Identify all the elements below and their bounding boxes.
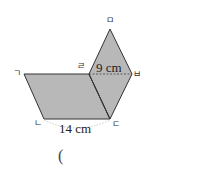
answer-open-paren: ( xyxy=(58,148,63,164)
figure-drawing xyxy=(0,0,214,174)
vertex-label-giyeok: ㄱ xyxy=(13,69,21,78)
vertex-label-nieun: ㄴ xyxy=(34,119,42,128)
vertex-label-rieul: ㄹ xyxy=(77,62,85,71)
dimension-label-14cm: 14 cm xyxy=(59,122,91,135)
geometry-figure: ㄱ ㄴ ㄷ ㄹ ㅁ ㅂ 9 cm 14 cm ( xyxy=(0,0,214,174)
vertex-label-digeut: ㄷ xyxy=(112,120,120,129)
vertex-label-mieum: ㅁ xyxy=(106,16,114,25)
dimension-label-9cm: 9 cm xyxy=(96,61,122,74)
vertex-label-bieup: ㅂ xyxy=(133,70,141,79)
